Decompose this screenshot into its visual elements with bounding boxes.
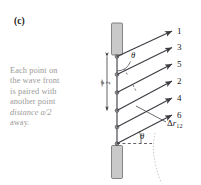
ray-label-1: 1 [177, 26, 182, 36]
slit-half-width-label: a 2 [98, 80, 111, 87]
theta-label-bottom: θ [140, 131, 145, 141]
ray-label-3: 3 [177, 42, 182, 52]
ray-label-4: 4 [177, 93, 182, 103]
svg-text:2: 2 [104, 81, 111, 84]
theta-label-top: θ [131, 50, 136, 60]
ray-line-6 [117, 115, 172, 144]
ray-line-4 [117, 98, 172, 127]
diffraction-diagram: a 2 1 3 5 2 4 6 θ θ Δr12 [0, 0, 201, 185]
ray-label-6: 6 [177, 110, 182, 120]
ray-line-1 [117, 31, 172, 57]
ray-label-2: 2 [177, 76, 182, 86]
lower-barrier-bar [112, 146, 123, 179]
theta-arc-top [117, 62, 131, 72]
upper-barrier-bar [112, 23, 123, 55]
dotted-wavefront-arc [153, 133, 161, 182]
ray-line-2 [117, 81, 172, 111]
path-difference-tick [133, 85, 137, 92]
delta-r-label: Δr12 [167, 118, 183, 129]
ray-label-5: 5 [177, 59, 182, 69]
delta-r-subscript: 12 [176, 122, 182, 129]
